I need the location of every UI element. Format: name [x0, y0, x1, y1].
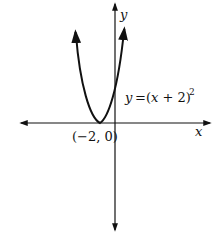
- equation-exponent: 2: [189, 87, 195, 97]
- x-axis-label: x: [195, 124, 203, 139]
- y-axis-label: y: [119, 7, 128, 22]
- parabola-curve: [76, 31, 124, 123]
- graph-canvas: y x (−2, 0) y = (x + 2) 2: [0, 0, 221, 237]
- vertex-label: (−2, 0): [72, 129, 118, 144]
- equation-label: y = (x + 2) 2: [124, 87, 195, 105]
- parabola-left-arrow: [76, 32, 77, 40]
- equation-y: y: [124, 90, 133, 105]
- parabola-right-arrow: [123, 29, 124, 38]
- equation-equals: =: [135, 90, 146, 105]
- equation-body: (x + 2): [146, 90, 191, 105]
